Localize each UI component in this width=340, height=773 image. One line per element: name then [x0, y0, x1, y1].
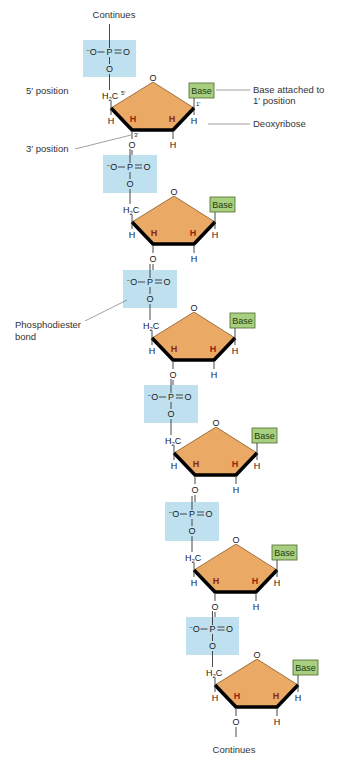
- hydrogen-c1: H: [191, 116, 198, 126]
- dna-backbone-diagram: Continues −OPOOH2C5′OHHHHHO3′1′Base−OPOO…: [0, 0, 340, 773]
- ester-oxygen: O: [167, 409, 174, 419]
- ch2-group: H2C: [206, 668, 223, 679]
- three-prime-label: 3′ position: [26, 143, 68, 154]
- three-prime-oxygen: O: [211, 602, 218, 612]
- hydrogen-c4: H: [129, 230, 136, 240]
- phosphate-oxygen-double: O: [143, 162, 150, 172]
- phosphorus-atom: P: [209, 624, 215, 634]
- ester-oxygen: O: [106, 64, 113, 74]
- phosphate-oxygen-double: O: [123, 47, 130, 57]
- five-prime-label: 5′ position: [26, 85, 68, 96]
- phosphorus-atom: P: [168, 392, 174, 402]
- three-prime-leader-line: [75, 135, 131, 149]
- base-label: Base: [295, 663, 316, 673]
- base-label: Base: [254, 431, 275, 441]
- phosphodiester-label-line1: Phosphodiester: [15, 319, 81, 330]
- nucleotide-unit: −OPOOH2COHHHHHOBase: [103, 149, 235, 271]
- phosphate-oxygen-double: O: [226, 624, 233, 634]
- phosphorus-atom: P: [106, 47, 112, 57]
- base-label: Base: [274, 548, 295, 558]
- hydrogen-c1: H: [254, 461, 261, 471]
- hydrogen-c2-lower: H: [191, 254, 198, 264]
- ester-oxygen: O: [209, 641, 216, 651]
- nucleotide-units: −OPOOH2C5′OHHHHHO3′1′Base−OPOOH2COHHHHHO…: [83, 24, 318, 727]
- hydrogen-c2-lower: H: [253, 602, 260, 612]
- five-prime-marker: 5′: [121, 90, 126, 96]
- phosphodiester-leader-line: [85, 300, 127, 321]
- ring-oxygen: O: [232, 535, 239, 545]
- nucleotide-unit: −OPOOH2C5′OHHHHHO3′1′Base: [83, 24, 214, 157]
- ring-oxygen: O: [149, 73, 156, 83]
- ch2-group: H2C: [102, 91, 119, 102]
- phosphodiester-label-line2: bond: [15, 331, 36, 342]
- ch2-group: H2C: [143, 321, 160, 332]
- ester-oxygen: O: [188, 526, 195, 536]
- base-attached-label-line1: Base attached to: [253, 84, 324, 95]
- hydrogen-c4: H: [108, 116, 115, 126]
- three-prime-oxygen: O: [149, 254, 156, 264]
- one-prime-marker: 1′: [196, 101, 201, 107]
- hydrogen-c1: H: [274, 578, 281, 588]
- phosphate-oxygen-double: O: [163, 277, 170, 287]
- phosphate-oxygen-double: O: [205, 509, 212, 519]
- deoxyribose-label: Deoxyribose: [253, 118, 306, 129]
- ester-oxygen: O: [126, 179, 133, 189]
- hydrogen-c1: H: [295, 693, 302, 703]
- three-prime-oxygen: O: [169, 370, 176, 380]
- hydrogen-c3: H: [151, 228, 158, 238]
- three-prime-oxygen: O: [191, 485, 198, 495]
- ch2-group: H2C: [165, 436, 182, 447]
- hydrogen-c4: H: [191, 578, 198, 588]
- hydrogen-c2-lower: H: [211, 370, 218, 380]
- nucleotide-unit: −OPOOH2COHHHHHOBase: [144, 379, 277, 502]
- hydrogen-c3: H: [234, 691, 241, 701]
- ring-oxygen: O: [170, 187, 177, 197]
- base-label: Base: [191, 86, 212, 96]
- three-prime-marker: 3′: [134, 132, 139, 138]
- continues-top-label: Continues: [93, 9, 136, 20]
- base-attached-label-line2: 1′ position: [253, 95, 295, 106]
- hydrogen-c2: H: [232, 459, 239, 469]
- hydrogen-c4: H: [149, 346, 156, 356]
- hydrogen-c4: H: [171, 461, 178, 471]
- hydrogen-c3: H: [193, 459, 200, 469]
- continues-bottom-label: Continues: [213, 744, 256, 755]
- hydrogen-c3: H: [213, 576, 220, 586]
- phosphorus-atom: P: [127, 162, 133, 172]
- hydrogen-c2: H: [210, 344, 217, 354]
- ring-oxygen: O: [212, 418, 219, 428]
- base-label: Base: [212, 200, 233, 210]
- hydrogen-c3: H: [130, 114, 137, 124]
- phosphate-oxygen-double: O: [184, 392, 191, 402]
- nucleotide-unit: −OPOOH2COHHHHHOBase: [165, 496, 297, 619]
- ch2-group: H2C: [123, 205, 140, 216]
- hydrogen-c2-lower: H: [274, 717, 281, 727]
- hydrogen-c2-lower: H: [233, 485, 240, 495]
- nucleotide-unit: −OPOOH2COHHHHHOBase: [186, 611, 318, 727]
- phosphorus-atom: P: [147, 277, 153, 287]
- phosphorus-atom: P: [189, 509, 195, 519]
- ester-oxygen: O: [146, 294, 153, 304]
- ring-oxygen: O: [253, 650, 260, 660]
- ch2-group: H2C: [185, 553, 202, 564]
- hydrogen-c2: H: [273, 691, 280, 701]
- three-prime-oxygen: O: [128, 140, 135, 150]
- nucleotide-unit: −OPOOH2COHHHHHOBase: [123, 264, 255, 387]
- hydrogen-c1: H: [232, 346, 239, 356]
- hydrogen-c4: H: [212, 693, 219, 703]
- hydrogen-c2-lower: H: [170, 140, 177, 150]
- hydrogen-c2: H: [169, 114, 176, 124]
- hydrogen-c3: H: [171, 344, 178, 354]
- hydrogen-c2: H: [252, 576, 259, 586]
- base-label: Base: [232, 316, 253, 326]
- ring-oxygen: O: [190, 303, 197, 313]
- hydrogen-c2: H: [190, 228, 197, 238]
- three-prime-oxygen: O: [232, 717, 239, 727]
- hydrogen-c1: H: [212, 230, 219, 240]
